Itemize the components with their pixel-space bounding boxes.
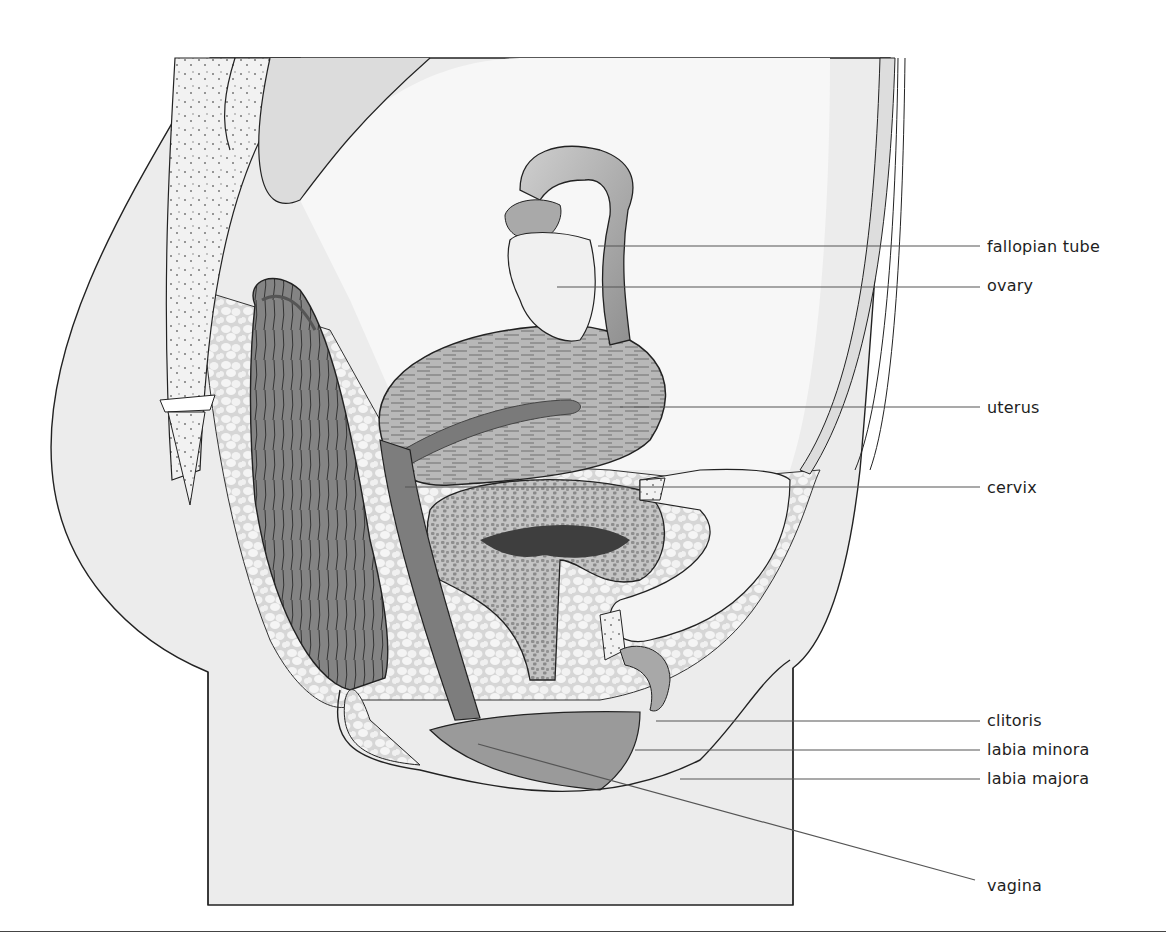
label-labia-majora: labia majora <box>987 769 1089 789</box>
figure-bottom-rule <box>0 931 1166 932</box>
label-clitoris: clitoris <box>987 711 1042 731</box>
label-ovary: ovary <box>987 276 1033 296</box>
anatomy-illustration <box>0 0 1166 952</box>
label-fallopian-tube: fallopian tube <box>987 237 1100 257</box>
label-cervix: cervix <box>987 478 1037 498</box>
label-vagina: vagina <box>987 876 1042 896</box>
label-labia-minora: labia minora <box>987 740 1090 760</box>
anatomy-figure: fallopian tube ovary uterus cervix clito… <box>0 0 1166 952</box>
label-uterus: uterus <box>987 398 1040 418</box>
